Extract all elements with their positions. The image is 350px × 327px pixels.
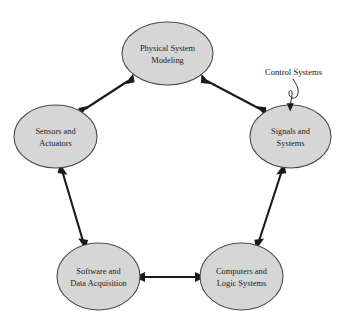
node-label-line2: Data Acquisition: [70, 279, 127, 288]
edge-modeling-sensors: [78, 74, 134, 117]
node-label-line1: Computers and: [216, 267, 268, 276]
node-label-line1: Sensors and: [35, 127, 76, 136]
edge-line: [259, 172, 282, 241]
node-shape: [250, 105, 331, 168]
node-computers-and-logic-systems[interactable]: Computers and Logic Systems: [200, 243, 283, 310]
annotation-leader-line: [289, 79, 298, 104]
node-shape: [122, 22, 213, 85]
node-label-line1: Physical System: [140, 44, 196, 53]
node-shape: [57, 243, 140, 310]
edge-line: [207, 81, 260, 109]
node-software-and-data-acquisition[interactable]: Software and Data Acquisition: [57, 243, 140, 310]
node-label-line2: Systems: [277, 139, 305, 148]
arrow-head-start: [201, 74, 211, 84]
node-signals-and-systems[interactable]: Signals and Systems: [250, 105, 331, 168]
annotation-label: Control Systems: [265, 67, 323, 77]
diagram-canvas: Physical System Modeling Sensors and Act…: [0, 0, 350, 327]
edge-sensors-software: [58, 164, 88, 250]
node-layer: Physical System Modeling Sensors and Act…: [14, 22, 331, 310]
node-shape: [14, 105, 97, 168]
control-systems-cycle-diagram: Physical System Modeling Sensors and Act…: [0, 0, 350, 327]
node-shape: [200, 243, 283, 310]
edge-software-computers: [135, 272, 206, 282]
node-label-line2: Modeling: [151, 56, 184, 65]
edge-line: [63, 172, 84, 241]
edge-line: [85, 81, 128, 109]
edge-signals-computers: [254, 164, 286, 250]
node-physical-system-modeling[interactable]: Physical System Modeling: [122, 22, 213, 85]
node-label-line1: Software and: [76, 267, 121, 276]
node-label-line2: Actuators: [39, 139, 72, 148]
node-sensors-and-actuators[interactable]: Sensors and Actuators: [14, 105, 97, 168]
edge-modeling-signals: [201, 74, 266, 117]
arrow-head-start: [125, 74, 135, 85]
node-label-line2: Logic Systems: [217, 279, 267, 288]
node-label-line1: Signals and: [271, 127, 311, 136]
